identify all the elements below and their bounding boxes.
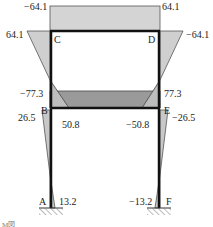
top-beam-moment [50,6,160,31]
node-b-label: B [41,106,48,116]
col-d-moment [160,31,183,80]
value-col-d-top: −64.1 [186,30,209,40]
value-top-beam-left: −64.1 [24,2,47,12]
node-e-label: E [164,106,170,116]
moment-diagram: −64.1 64.1 64.1 −64.1 −77.3 77.3 26.5 −2… [0,0,213,227]
value-col-a-base: 13.2 [59,197,77,207]
value-col-f-base: −13.2 [129,197,152,207]
value-col-e-lower: −26.5 [172,113,195,123]
fixed-support-f [147,208,171,215]
value-top-beam-right: 64.1 [162,2,180,12]
col-b-lower-moment [42,110,50,175]
col-e-lower-moment [160,110,168,175]
value-col-c-top: 64.1 [6,30,24,40]
node-f-label: F [166,197,172,207]
fixed-support-a [39,208,63,215]
value-beam-e: −50.8 [126,120,149,130]
node-c-label: C [54,35,61,45]
value-col-e-upper: 77.3 [164,89,182,99]
value-beam-b: 50.8 [62,120,80,130]
col-c-moment [27,31,50,80]
diagram-caption: M図 [2,220,15,227]
value-col-b-upper: −77.3 [20,89,43,99]
node-a-label: A [39,197,46,207]
node-d-label: D [148,35,155,45]
value-col-b-lower: 26.5 [18,113,36,123]
